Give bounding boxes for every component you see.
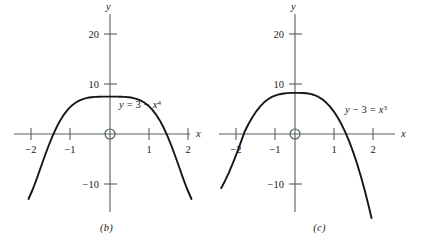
x-tick-label-2-b: 2 — [185, 144, 190, 155]
x-tick-label-1-c: 1 — [331, 144, 336, 155]
plot-panel-c: y−3=x3 x y −2 −1 1 2 20 10 −10 (c) — [213, 0, 426, 249]
y-tick-label--10-c: −10 — [268, 179, 284, 190]
eq-lhs-b: y — [118, 99, 124, 110]
plot-panel-b: y=3−x4 x y −2 −1 1 2 20 10 −10 (b) — [0, 0, 213, 249]
eq-num-c: 3 — [362, 104, 367, 115]
x-axis-name-c: x — [400, 128, 406, 139]
eq-lhs-c: y — [344, 104, 350, 115]
y-tick-label-10-b: 10 — [89, 79, 100, 90]
x-tick-label-1-b: 1 — [146, 144, 151, 155]
eq-op1-b: = — [127, 99, 133, 110]
eq-op2-c: = — [370, 104, 376, 115]
x-tick-label--1-b: −1 — [64, 144, 75, 155]
eq-op1-c: − — [353, 104, 359, 115]
plot-svg-c: y−3=x3 x y −2 −1 1 2 20 10 −10 — [213, 0, 426, 225]
x-tick-label-2-c: 2 — [370, 144, 375, 155]
panel-caption-c: (c) — [213, 222, 426, 233]
y-tick-label-20-b: 20 — [89, 29, 100, 40]
y-axis-name-c: y — [290, 1, 296, 12]
plot-svg-b: y=3−x4 x y −2 −1 1 2 20 10 −10 — [0, 0, 213, 225]
equation-label-c: y−3=x3 — [344, 104, 387, 116]
eq-op2-b: − — [144, 99, 150, 110]
x-tick-label--1-c: −1 — [269, 144, 280, 155]
x-tick-label--2-c: −2 — [230, 144, 241, 155]
y-tick-label-10-c: 10 — [274, 79, 285, 90]
panel-caption-b: (b) — [0, 222, 213, 233]
y-tick-label-20-c: 20 — [274, 29, 285, 40]
x-tick-label--2-b: −2 — [25, 144, 36, 155]
eq-exponent-b: 4 — [157, 99, 161, 107]
y-axis-name-b: y — [105, 1, 111, 12]
figure-root: y=3−x4 x y −2 −1 1 2 20 10 −10 (b) — [0, 0, 426, 249]
eq-exponent-c: 3 — [383, 104, 387, 112]
y-tick-label--10-b: −10 — [83, 179, 99, 190]
eq-num-b: 3 — [136, 99, 141, 110]
x-axis-name-b: x — [195, 128, 201, 139]
equation-label-b: y=3−x4 — [118, 99, 161, 111]
